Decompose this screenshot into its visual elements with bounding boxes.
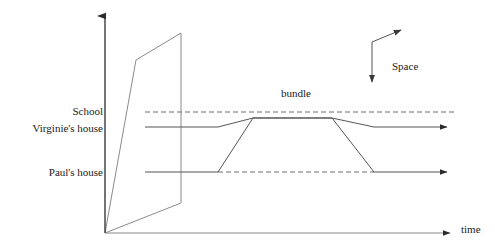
annotation-space: Space — [392, 60, 418, 72]
space-arrow-up — [372, 30, 401, 42]
annotation-bundle: bundle — [281, 87, 311, 99]
space-plane-parallelogram — [105, 33, 181, 233]
axis-title-time: time — [461, 223, 481, 235]
paul-trajectory — [145, 118, 447, 172]
axis-label-virginie-house: Virginie's house — [33, 122, 103, 134]
axis-label-paul-house: Paul's house — [49, 166, 103, 178]
virginie-trajectory — [145, 118, 447, 127]
diagram-canvas: School Virginie's house Paul's house bun… — [0, 0, 495, 252]
axis-label-school: School — [72, 105, 103, 117]
